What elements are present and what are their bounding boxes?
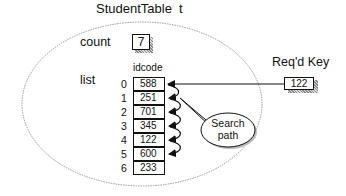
count-value-box: 7 bbox=[132, 34, 150, 50]
row-index: 0 bbox=[120, 77, 128, 91]
array-cell: 588 bbox=[133, 77, 165, 91]
idcode-header: idcode bbox=[133, 62, 162, 73]
row-index: 1 bbox=[120, 91, 128, 105]
array-cell: 122 bbox=[133, 133, 165, 147]
search-path-callout: Search path bbox=[208, 117, 248, 141]
callout-line-2: path bbox=[208, 129, 248, 141]
diagram-title: StudentTable t bbox=[96, 1, 183, 16]
row-index: 4 bbox=[120, 133, 128, 147]
row-index: 5 bbox=[120, 147, 128, 161]
row-index: 6 bbox=[120, 161, 128, 175]
list-label: list bbox=[80, 73, 95, 87]
count-label: count bbox=[80, 35, 111, 49]
array-cell: 233 bbox=[133, 161, 165, 175]
callout-line-1: Search bbox=[208, 117, 248, 129]
array-cell: 345 bbox=[133, 119, 165, 133]
required-key-label: Req'd Key bbox=[272, 55, 329, 69]
row-index: 2 bbox=[120, 105, 128, 119]
array-cell: 701 bbox=[133, 105, 165, 119]
array-cell: 251 bbox=[133, 91, 165, 105]
search-path-arrows bbox=[168, 85, 180, 154]
row-index: 3 bbox=[120, 119, 128, 133]
diagram-lines bbox=[0, 0, 346, 196]
array-cell: 600 bbox=[133, 147, 165, 161]
required-key-box: 122 bbox=[284, 77, 314, 90]
